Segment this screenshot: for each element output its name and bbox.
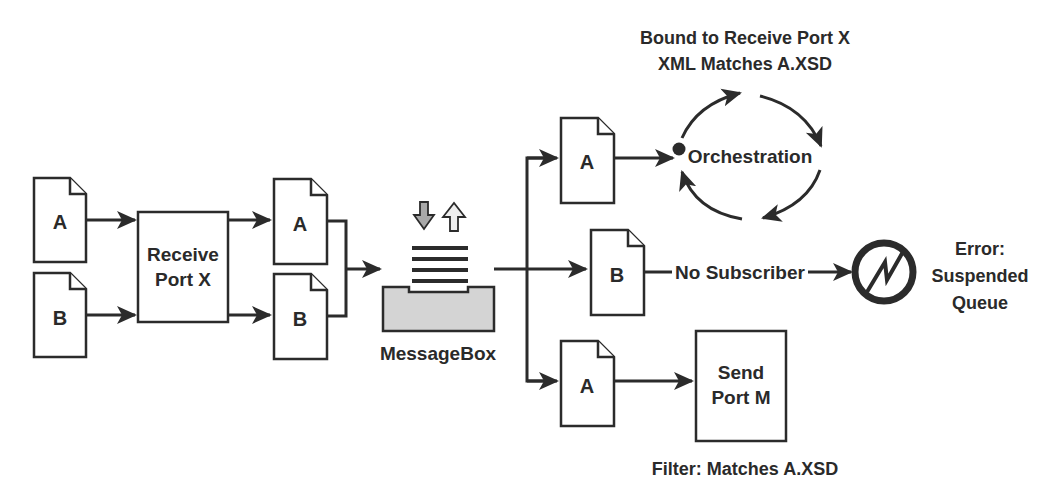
receive-port-x: Receive Port X	[138, 212, 228, 322]
merge-bracket	[327, 221, 346, 316]
orchestration: Orchestration	[673, 93, 822, 219]
messagebox: MessageBox	[380, 202, 497, 364]
output-document-a-label: A	[293, 213, 307, 235]
send-port-line1: Send	[718, 362, 764, 383]
error-icon	[855, 243, 913, 301]
cycle-arrow-top-right	[760, 96, 821, 146]
input-document-a: A	[34, 178, 86, 262]
orchestration-label: Orchestration	[688, 146, 813, 167]
orchestration-entry-dot	[673, 143, 686, 156]
send-port-m: Send Port M	[696, 331, 786, 441]
down-arrow-icon	[414, 202, 434, 229]
output-document-a: A	[274, 179, 327, 264]
output-document-b: B	[274, 274, 327, 359]
input-document-b: B	[34, 273, 86, 357]
no-subscriber-label: No Subscriber	[675, 262, 805, 283]
messagebox-label: MessageBox	[380, 343, 497, 364]
input-document-a-label: A	[53, 211, 67, 233]
route-document-b: B	[591, 230, 644, 315]
up-arrow-icon	[443, 203, 465, 231]
receive-port-line1: Receive	[147, 244, 219, 265]
route-document-b-label: B	[610, 264, 624, 286]
send-port-line2: Port M	[711, 387, 770, 408]
route-document-a-top: A	[561, 118, 614, 203]
error-line1: Error:	[955, 239, 1005, 259]
orchestration-caption-line1: Bound to Receive Port X	[640, 28, 850, 48]
route-document-a-bottom: A	[561, 341, 614, 426]
input-document-b-label: B	[53, 307, 67, 329]
route-document-a-bottom-label: A	[580, 375, 594, 397]
send-port-filter-caption: Filter: Matches A.XSD	[652, 459, 838, 479]
biztalk-routing-diagram: A B Receive Port X A B	[0, 0, 1055, 502]
cycle-arrow-bottom-right	[763, 170, 820, 218]
cycle-arrow-bottom-left	[682, 172, 742, 219]
orchestration-caption-line2: XML Matches A.XSD	[658, 54, 832, 74]
output-document-b-label: B	[293, 308, 307, 330]
cycle-arrow-top-left	[682, 93, 740, 138]
error-line2: Suspended	[931, 266, 1028, 286]
route-document-a-top-label: A	[580, 151, 594, 173]
message-stack-icon	[412, 246, 468, 283]
messagebox-tray	[383, 287, 494, 331]
receive-port-line2: Port X	[155, 269, 211, 290]
error-line3: Queue	[952, 293, 1008, 313]
